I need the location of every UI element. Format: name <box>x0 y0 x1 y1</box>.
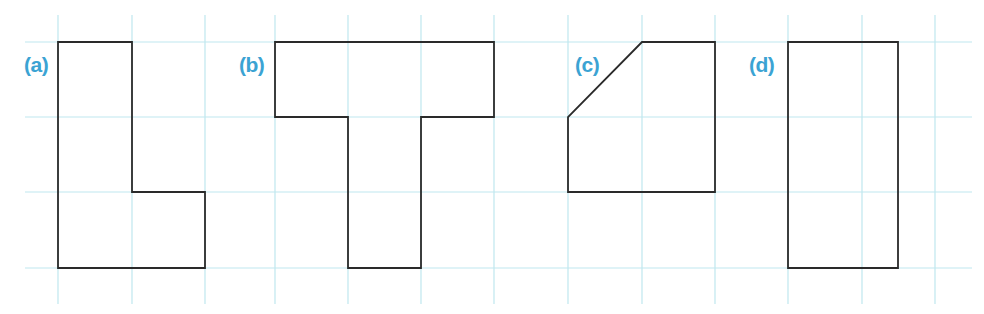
grid-diagram <box>0 0 984 314</box>
label-d: (d) <box>749 53 774 77</box>
label-b: (b) <box>239 53 264 77</box>
label-c: (c) <box>575 53 599 77</box>
label-a: (a) <box>24 53 48 77</box>
grid-lines <box>25 15 972 304</box>
figure-b-outline <box>275 42 494 268</box>
figure-d-outline <box>788 42 898 268</box>
